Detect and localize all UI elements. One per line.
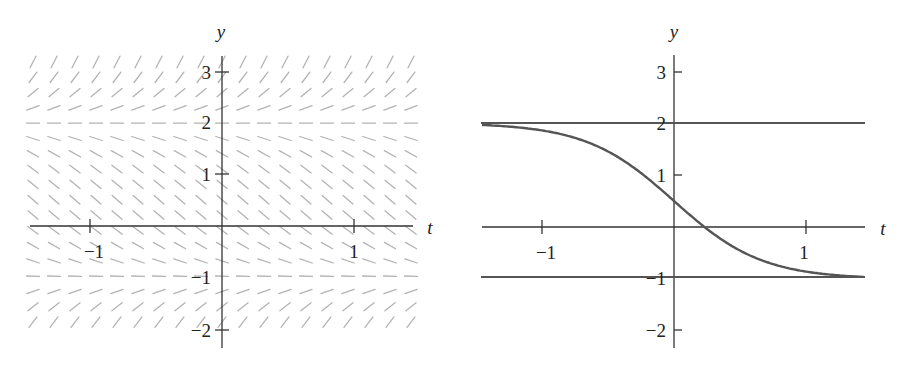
slope-mark: [384, 242, 395, 248]
slope-mark: [154, 303, 164, 311]
slope-mark: [134, 317, 142, 327]
slope-mark: [386, 72, 394, 82]
slope-mark: [133, 89, 143, 97]
slope-mark: [406, 226, 416, 234]
slope-mark: [343, 89, 353, 97]
slope-mark: [301, 226, 311, 234]
slope-mark: [237, 106, 249, 111]
slope-mark: [176, 72, 184, 82]
slope-mark: [71, 72, 79, 82]
slope-mark: [343, 195, 353, 204]
y-tick-label-neg2: −2: [191, 320, 211, 341]
slope-mark: [28, 303, 38, 311]
slope-mark: [281, 72, 289, 82]
slope-mark: [301, 89, 311, 97]
slope-mark: [405, 289, 417, 293]
slope-mark: [133, 211, 143, 219]
slope-mark: [303, 56, 309, 68]
slope-mark: [405, 137, 417, 141]
slope-mark: [261, 56, 267, 68]
slope-mark: [153, 289, 165, 293]
slope-mark: [133, 226, 143, 234]
y-tick-label-2: 2: [657, 113, 667, 134]
slope-mark: [240, 56, 246, 68]
slope-mark: [300, 137, 312, 141]
slope-mark: [280, 211, 290, 219]
slope-mark: [342, 106, 354, 111]
slope-mark: [342, 289, 354, 293]
slope-mark: [112, 226, 122, 234]
slope-mark: [280, 165, 290, 173]
slope-mark: [384, 151, 395, 157]
slope-field-panel: t y −1 1 3 2 1 −1 −2: [27, 21, 434, 348]
slope-mark: [239, 317, 247, 327]
slope-mark: [238, 226, 248, 234]
slope-mark: [258, 151, 269, 157]
slope-mark: [92, 72, 100, 82]
slope-mark: [132, 289, 144, 293]
slope-mark: [280, 195, 290, 204]
slope-mark: [195, 242, 206, 248]
slope-mark: [343, 226, 353, 234]
slope-mark: [70, 226, 80, 234]
slope-mark: [323, 72, 331, 82]
slope-mark: [69, 106, 81, 111]
slope-mark: [385, 303, 395, 311]
slope-mark: [237, 259, 249, 263]
slope-mark: [406, 165, 416, 173]
slope-mark: [28, 211, 38, 219]
slope-mark: [363, 289, 375, 293]
slope-mark: [70, 165, 80, 173]
slope-mark: [91, 303, 101, 311]
slope-mark: [113, 72, 121, 82]
slope-mark: [237, 289, 249, 293]
slope-mark: [300, 106, 312, 111]
slope-mark: [112, 165, 122, 173]
slope-mark: [112, 303, 122, 311]
slope-mark: [259, 180, 269, 188]
slope-mark: [364, 195, 374, 204]
slope-mark: [302, 72, 310, 82]
slope-mark: [153, 242, 164, 248]
slope-mark: [238, 195, 248, 204]
slope-mark: [279, 137, 291, 141]
y-tick-label-3: 3: [202, 62, 212, 83]
t-tick-label-1: 1: [799, 242, 809, 263]
slope-mark: [363, 259, 375, 263]
slope-mark: [111, 106, 123, 111]
slope-mark: [69, 289, 81, 293]
slope-mark: [384, 137, 396, 141]
slope-mark: [70, 89, 80, 97]
slope-mark: [90, 151, 101, 157]
slope-mark: [70, 303, 80, 311]
slope-mark: [132, 106, 144, 111]
slope-mark: [154, 226, 164, 234]
slope-mark: [28, 226, 38, 234]
slope-mark: [323, 317, 331, 327]
slope-mark: [258, 289, 270, 293]
slope-mark: [28, 165, 38, 173]
slope-mark: [195, 289, 207, 293]
slope-mark: [195, 151, 206, 157]
slope-mark: [385, 89, 395, 97]
slope-mark: [174, 106, 186, 111]
slope-mark: [322, 195, 332, 204]
slope-mark: [48, 137, 60, 141]
slope-mark: [281, 317, 289, 327]
slope-mark: [279, 106, 291, 111]
slope-mark: [385, 226, 395, 234]
slope-mark: [344, 72, 352, 82]
slope-mark: [195, 137, 207, 141]
slope-mark: [345, 56, 351, 68]
slope-mark: [175, 180, 185, 188]
slope-mark: [132, 137, 144, 141]
slope-mark: [365, 72, 373, 82]
slope-mark: [91, 89, 101, 97]
slope-mark: [132, 259, 144, 263]
slope-mark: [363, 151, 374, 157]
slope-mark: [175, 165, 185, 173]
slope-mark: [405, 259, 417, 263]
slope-mark: [343, 303, 353, 311]
slope-mark: [322, 165, 332, 173]
slope-mark: [259, 165, 269, 173]
